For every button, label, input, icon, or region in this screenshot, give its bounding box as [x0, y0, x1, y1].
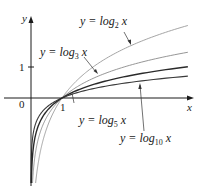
label-log5: y = log5x — [78, 113, 127, 129]
x-axis-label: x — [186, 101, 192, 113]
y-tick-1-label: 1 — [19, 61, 25, 73]
label-log3: y = log3x — [39, 45, 88, 61]
origin-label: 0 — [19, 98, 25, 110]
leader-log2-arrow-icon — [128, 40, 132, 46]
leader-log10 — [140, 85, 144, 131]
y-axis-label: y — [21, 12, 27, 24]
x-tick-1-label: 1 — [60, 101, 66, 113]
log-functions-graph: y x 0 1 1 y = log2x y = log3x y = log5x … — [0, 0, 201, 192]
label-log10: y = log10x — [119, 131, 172, 147]
label-log2: y = log2x — [79, 14, 128, 30]
x-axis-arrow-icon — [187, 96, 194, 101]
curve-log10 — [31, 76, 188, 183]
leader-log10-arrow-icon — [138, 83, 141, 89]
y-axis-arrow-icon — [29, 16, 34, 23]
